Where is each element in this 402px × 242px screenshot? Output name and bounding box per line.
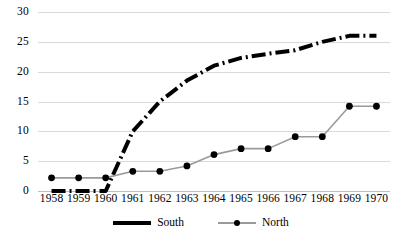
x-tick-label-1966: 1966 [256, 193, 279, 205]
data-point-north-1963 [184, 163, 191, 170]
y-tick-label-0: 0 [23, 185, 29, 197]
line-chart: 051015202530 195819591960196119621963196… [0, 0, 402, 242]
y-axis: 051015202530 [0, 12, 34, 191]
series-line-north [52, 106, 377, 178]
data-point-north-1965 [238, 145, 245, 152]
data-point-north-1962 [156, 168, 163, 175]
y-tick-label-10: 10 [17, 126, 29, 138]
data-point-north-1960 [102, 174, 109, 181]
x-tick-label-1959: 1959 [67, 193, 90, 205]
x-tick-label-1967: 1967 [284, 193, 307, 205]
x-tick-label-1965: 1965 [229, 193, 252, 205]
series-north [48, 103, 380, 181]
data-point-north-1959 [75, 174, 82, 181]
x-axis: 1958195919601961196219631964196519661967… [38, 193, 390, 211]
x-tick-label-1964: 1964 [202, 193, 225, 205]
y-tick-label-20: 20 [17, 66, 29, 78]
y-tick-label-30: 30 [17, 6, 29, 18]
y-tick-label-25: 25 [17, 36, 29, 48]
chart-legend: South North [0, 212, 402, 234]
data-point-north-1958 [48, 174, 55, 181]
x-tick-label-1962: 1962 [148, 193, 171, 205]
data-point-north-1964 [211, 151, 218, 158]
x-tick-label-1970: 1970 [365, 193, 388, 205]
legend-swatch-south-icon [113, 217, 151, 229]
series-layer [38, 12, 390, 191]
x-tick-label-1968: 1968 [311, 193, 334, 205]
data-point-north-1969 [346, 103, 353, 110]
x-tick-label-1960: 1960 [94, 193, 117, 205]
data-point-north-1966 [265, 145, 272, 152]
legend-item-north[interactable]: North [218, 217, 289, 229]
data-point-north-1970 [373, 103, 380, 110]
x-tick-label-1961: 1961 [121, 193, 144, 205]
legend-swatch-north-icon [218, 217, 256, 229]
y-tick-label-5: 5 [23, 155, 29, 167]
x-tick-label-1963: 1963 [175, 193, 198, 205]
series-south [52, 36, 377, 191]
legend-label-south: South [157, 217, 184, 229]
legend-item-south[interactable]: South [113, 217, 184, 229]
y-tick-label-15: 15 [17, 96, 29, 108]
data-point-north-1961 [129, 168, 136, 175]
legend-label-north: North [262, 217, 289, 229]
series-line-south [52, 36, 377, 191]
x-tick-label-1958: 1958 [40, 193, 63, 205]
plot-area [38, 12, 390, 191]
x-tick-label-1969: 1969 [338, 193, 361, 205]
data-point-north-1968 [319, 133, 326, 140]
data-point-north-1967 [292, 133, 299, 140]
